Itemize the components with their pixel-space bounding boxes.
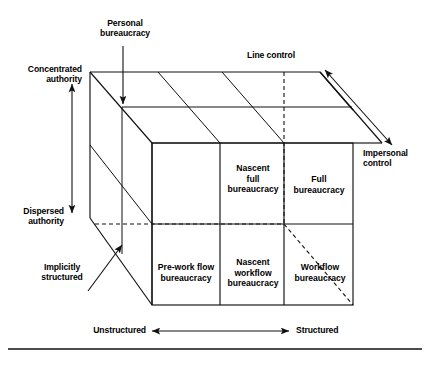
cell-workflow-bureaucracy: Workflow bureaucracy [288,262,352,283]
cell-nascent-workflow-bureaucracy: Nascent workflow bureaucracy [222,257,284,289]
callout-personal-bureaucracy-label: Personal bureaucracy [90,18,160,39]
cube-edge-bottom-left [90,218,152,305]
cube-left-row-divider [90,145,152,224]
cube-diagram [0,0,430,366]
axis-label-unstructured: Unstructured [78,325,146,335]
cube-top-face [90,72,382,143]
axis-label-structured: Structured [296,325,366,335]
figure-root: Personal bureaucracy Concentrated author… [0,0,430,366]
cell-nascent-full-bureaucracy: Nascent full bureaucracy [222,163,284,195]
axis-label-line-control: Line control [247,50,327,60]
cell-full-bureaucracy: Full bureaucracy [288,174,350,195]
callout-implicitly-structured-label: Implicitly structured [28,262,96,283]
axis-label-dispersed-authority: Dispersed authority [4,206,64,227]
axis-label-concentrated-authority: Concentrated authority [4,64,82,85]
axis-label-impersonal-control: Impersonal control [363,148,429,169]
cell-pre-work-flow-bureaucracy: Pre-work flow bureaucracy [153,262,219,283]
